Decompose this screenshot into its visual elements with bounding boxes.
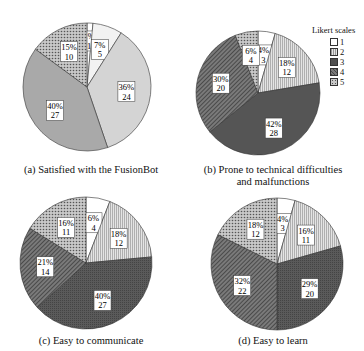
legend-swatch-3 bbox=[330, 58, 338, 66]
legend-swatch-1 bbox=[330, 38, 338, 46]
slice-percent-label: 15% bbox=[61, 42, 77, 52]
slice-percent-label: 29% bbox=[302, 279, 318, 289]
legend-label-4: 4 bbox=[340, 67, 344, 77]
slice-percent-label: 21% bbox=[37, 257, 53, 267]
slice-count-label: 12 bbox=[251, 229, 260, 239]
slice-percent-label: 4% bbox=[277, 214, 288, 224]
caption-c: (c) Easy to communicate bbox=[0, 335, 182, 347]
legend-label-2: 2 bbox=[340, 47, 344, 57]
slice-count-label: 20 bbox=[305, 289, 314, 299]
slice-percent-label: 18% bbox=[279, 58, 295, 68]
slice-count-label: 12 bbox=[282, 67, 291, 77]
legend: Likert scales 1 2 3 4 5 bbox=[318, 25, 355, 87]
slice-percent-label: 18% bbox=[111, 229, 127, 239]
slice-count-label: 27 bbox=[51, 110, 60, 120]
pie-chart-b: 4%318%1242%2830%206%4 bbox=[196, 31, 320, 155]
slice-count-label: 4 bbox=[249, 55, 254, 65]
slice-percent-label: 6% bbox=[88, 213, 99, 223]
caption-a: (a) Satisfied with the FusionBot bbox=[0, 164, 182, 176]
slice-count-label: 10 bbox=[65, 52, 74, 62]
slice-count-label: 3 bbox=[261, 55, 265, 65]
legend-swatch-2 bbox=[330, 48, 338, 56]
legend-item-2: 2 bbox=[330, 47, 355, 57]
slice-count-label: 20 bbox=[217, 83, 226, 93]
legend-item-3: 3 bbox=[330, 57, 355, 67]
slice-count-label: 5 bbox=[98, 49, 102, 59]
caption-d: (d) Easy to learn bbox=[182, 335, 364, 347]
slice-percent-label: 40% bbox=[95, 291, 111, 301]
pie-chart-c: 6%418%1240%2721%1416%11 bbox=[20, 197, 152, 329]
pie-chart-d: 4%316%1129%2032%2218%12 bbox=[211, 198, 343, 330]
pie-chart-a: 1%17%536%2440%2715%10 bbox=[23, 23, 151, 151]
slice-percent-label: 16% bbox=[298, 226, 314, 236]
slice-percent-label: 6% bbox=[245, 46, 256, 56]
legend-item-5: 5 bbox=[330, 77, 355, 87]
slice-count-label: 4 bbox=[91, 223, 96, 233]
slice-count-label: 12 bbox=[114, 238, 123, 248]
legend-swatch-5 bbox=[330, 78, 338, 86]
caption-b-line1: (b) Prone to technical difficulties bbox=[182, 164, 364, 176]
slice-percent-label: 30% bbox=[213, 74, 229, 84]
legend-label-5: 5 bbox=[340, 77, 344, 87]
slice-percent-label: 40% bbox=[47, 101, 63, 111]
slice-count-label: 24 bbox=[122, 92, 131, 102]
slice-count-label: 11 bbox=[302, 235, 310, 245]
slice-percent-label: 42% bbox=[266, 119, 282, 129]
slice-count-label: 22 bbox=[238, 286, 247, 296]
legend-item-4: 4 bbox=[330, 67, 355, 77]
legend-swatch-4 bbox=[330, 68, 338, 76]
legend-title: Likert scales bbox=[312, 25, 355, 35]
slice-count-label: 3 bbox=[281, 223, 285, 233]
slice-count-label: 27 bbox=[98, 300, 107, 310]
slice-count-label: 28 bbox=[269, 128, 278, 138]
slice-percent-label: 7% bbox=[94, 40, 105, 50]
slice-count-label: 11 bbox=[62, 227, 70, 237]
slice-percent-label: 32% bbox=[234, 276, 250, 286]
caption-b-line2: and malfunctions bbox=[182, 176, 364, 188]
legend-item-1: 1 bbox=[330, 37, 355, 47]
slice-count-label: 14 bbox=[41, 267, 50, 277]
legend-label-1: 1 bbox=[340, 37, 344, 47]
slice-percent-label: 16% bbox=[58, 218, 74, 228]
legend-label-3: 3 bbox=[340, 57, 344, 67]
slice-percent-label: 18% bbox=[248, 220, 264, 230]
slice-percent-label: 36% bbox=[119, 82, 135, 92]
